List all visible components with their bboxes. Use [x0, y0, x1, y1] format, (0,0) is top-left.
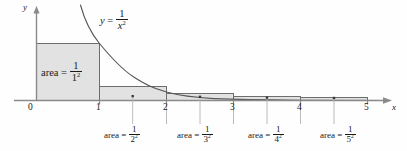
area-label-3-fraction: 1 32: [202, 125, 213, 145]
x-tick-label-2: 2: [163, 103, 168, 113]
area-label-5-fraction: 1 52: [345, 125, 356, 145]
area-label-5-denominator: 52: [345, 135, 356, 144]
area-label-1-numerator: 1: [70, 60, 83, 72]
area-label-3-denominator: 32: [202, 135, 213, 144]
area-label-3-equals: =: [194, 130, 199, 140]
x-tick-label-1: 1: [96, 103, 101, 113]
area-label-3-prefix: area: [177, 130, 192, 140]
area-label-5-prefix: area: [320, 130, 335, 140]
x-tick-label-5: 5: [364, 103, 369, 113]
area-label-2-prefix: area: [104, 130, 119, 140]
x-tick-label-0: 0: [28, 103, 33, 113]
area-label-5-equals: =: [337, 130, 342, 140]
area-label-2-denominator: 22: [129, 135, 140, 144]
x-axis-label: x: [392, 103, 396, 112]
curve-equation-lhs: y: [100, 15, 105, 26]
area-label-4-fraction: 1 42: [273, 125, 284, 145]
area-label-1-prefix: area: [41, 67, 58, 78]
area-label-2-equals: =: [121, 130, 126, 140]
area-label-3: area = 1 32: [177, 126, 213, 146]
area-label-1-denominator: 12: [70, 72, 83, 83]
x-tick-label-4: 4: [297, 103, 302, 113]
area-label-4: area = 1 42: [248, 126, 284, 146]
area-label-5: area = 1 52: [320, 126, 356, 146]
area-label-1-fraction: 1 12: [70, 60, 83, 83]
y-axis-label: y: [23, 3, 27, 12]
x-tick-label-3: 3: [230, 103, 235, 113]
area-label-4-prefix: area: [248, 130, 263, 140]
area-label-2: area = 1 22: [104, 126, 140, 146]
area-label-1: area = 1 12: [41, 62, 82, 85]
curve-equation-label: y = 1 x2: [100, 10, 128, 33]
area-label-1-equals: =: [61, 67, 67, 78]
area-label-2-fraction: 1 22: [129, 125, 140, 145]
area-label-4-equals: =: [265, 130, 270, 140]
area-label-4-denominator: 42: [273, 135, 284, 144]
series-rectangles-figure: y = 1 x2 area = 1 12 area = 1 22 area = …: [0, 0, 407, 151]
curve-equation-denominator: x2: [116, 20, 128, 31]
curve-equation-fraction: 1 x2: [116, 8, 128, 31]
curve-equation-equals: =: [107, 15, 113, 26]
riemann-rectangles: [37, 44, 368, 101]
